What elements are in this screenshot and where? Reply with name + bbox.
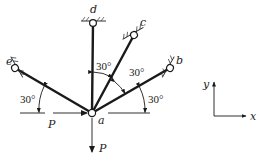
angle-arc-d-c xyxy=(93,72,113,78)
angle-label-c-b: 30° xyxy=(129,66,144,78)
angle-arc-e-horizontal xyxy=(39,87,44,113)
support-d: d xyxy=(81,3,106,26)
angle-label-e-horizontal: 30° xyxy=(20,93,35,105)
truss-diagram: d c b e 30° 30° 30° 30° a xyxy=(0,0,262,163)
label-d: d xyxy=(90,3,97,16)
y-axis-label: y xyxy=(202,78,210,91)
coordinate-axes: y x xyxy=(202,78,257,123)
angle-arc-c-b xyxy=(115,82,125,94)
pin-d xyxy=(90,20,97,27)
x-axis-label: x xyxy=(250,110,257,123)
label-b: b xyxy=(176,54,183,67)
load-horizontal-label: P xyxy=(47,118,56,131)
angle-label-d-c: 30° xyxy=(96,60,111,72)
bar-ae xyxy=(15,68,92,113)
angle-arc-b-horizontal xyxy=(140,87,146,113)
label-c: c xyxy=(140,16,146,29)
joint-a xyxy=(88,109,95,116)
label-a: a xyxy=(98,114,105,127)
angle-label-b-horizontal: 30° xyxy=(148,93,163,105)
label-e: e xyxy=(6,55,13,68)
bars xyxy=(15,23,170,113)
bar-ad xyxy=(92,23,93,113)
load-vertical-label: P xyxy=(98,142,107,155)
